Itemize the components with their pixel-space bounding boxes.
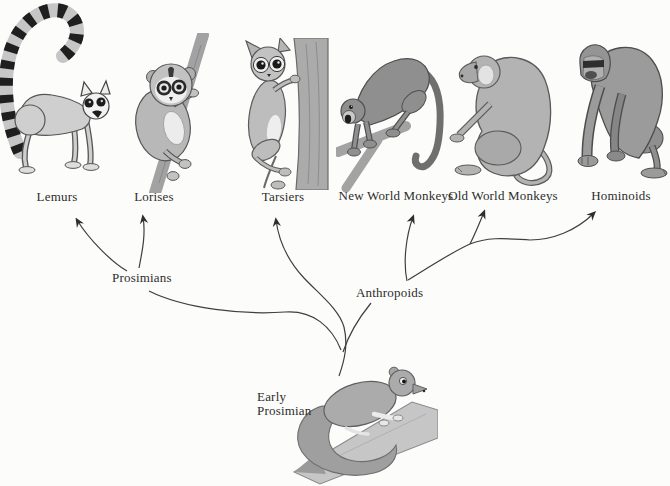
label-anthropoids: Anthropoids xyxy=(356,286,423,300)
label-early-prosimian: Early Prosimian xyxy=(257,390,312,418)
edge-fork-to-hominoids xyxy=(470,213,594,244)
edge-root-to-prosimians xyxy=(149,291,341,350)
edge-root-to-tarsiers xyxy=(276,220,346,376)
label-new-world-monkeys: New World Monkeys xyxy=(339,189,454,203)
primate-phylogeny-figure: Lemurs Lorises Tarsiers New World Monkey… xyxy=(0,0,670,486)
label-tarsiers: Tarsiers xyxy=(262,190,305,204)
edge-prosimians-to-lemurs xyxy=(77,220,127,271)
label-lorises: Lorises xyxy=(134,190,174,204)
edge-anthropoids-to-new-world-monkeys xyxy=(405,217,413,281)
phylogeny-lines xyxy=(0,0,670,486)
edge-prosimians-to-lorises xyxy=(139,217,144,268)
label-early-prosimian-line2: Prosimian xyxy=(257,404,312,418)
edge-root-to-anthropoids xyxy=(343,303,371,352)
label-prosimians: Prosimians xyxy=(112,271,172,285)
edge-anthropoids-fork xyxy=(408,244,470,280)
label-old-world-monkeys: Old World Monkeys xyxy=(448,189,558,203)
label-hominoids: Hominoids xyxy=(591,189,651,203)
label-early-prosimian-line1: Early xyxy=(257,390,312,404)
label-lemurs: Lemurs xyxy=(37,190,78,204)
edge-fork-to-old-world-monkeys xyxy=(470,212,484,244)
